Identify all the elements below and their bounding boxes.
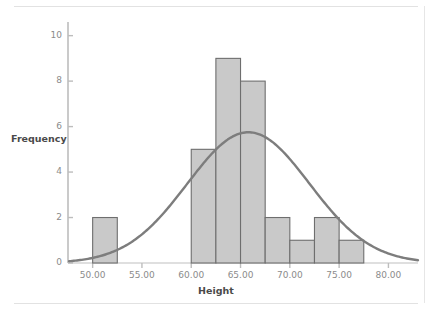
histogram-bar [241,81,266,263]
y-tick-label: 2 [36,212,62,222]
x-axis-title: Height [0,285,432,296]
x-tick-label: 75.00 [316,270,362,280]
histogram-plot [0,0,432,313]
y-tick-label: 6 [36,121,62,131]
y-tick-label: 0 [36,257,62,267]
y-axis-title: Frequency [11,133,67,144]
histogram-bar [191,149,216,263]
histogram-bar [216,58,241,263]
histogram-bar [265,218,290,263]
histogram-bar [290,240,315,263]
y-tick-label: 8 [36,75,62,85]
x-tick-label: 70.00 [267,270,313,280]
x-tick-label: 60.00 [168,270,214,280]
histogram-bars [93,58,364,263]
y-tick-label: 4 [36,166,62,176]
histogram-bar [314,218,339,263]
y-tick-label: 10 [36,30,62,40]
x-tick-label: 55.00 [119,270,165,280]
histogram-bar [339,240,364,263]
x-tick-label: 65.00 [218,270,264,280]
x-tick-label: 80.00 [365,270,411,280]
histogram-screenshot: 0246810 50.0055.0060.0065.0070.0075.0080… [0,0,432,313]
x-tick-label: 50.00 [70,270,116,280]
